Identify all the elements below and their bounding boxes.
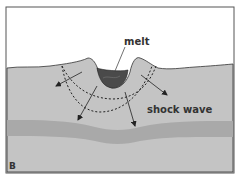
impact-crater-diagram: melt shock wave B (0, 0, 236, 177)
panel-label: B (9, 161, 16, 171)
shock-wave-label: shock wave (147, 104, 213, 115)
diagram-canvas: melt shock wave B (0, 0, 236, 177)
melt-label: melt (124, 36, 150, 47)
